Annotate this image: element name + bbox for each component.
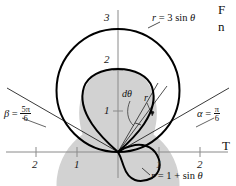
alpha-eq: = — [205, 108, 211, 119]
outer-curve-var: θ — [190, 12, 195, 23]
x-tick-label-neg2: 2 — [32, 159, 38, 170]
x-tick-label-pos2: 2 — [197, 159, 203, 170]
inner-curve-label: r = 1 + sin θ — [151, 171, 203, 182]
beta-symbol: β — [4, 108, 9, 119]
beta-angle-label: β = 5π 6 — [4, 105, 31, 124]
polar-figure: 3 2 1 2 1 1 2 r = 3 sin θ r = 1 + sin θ … — [0, 0, 236, 186]
page-edge-text-right: T — [222, 139, 230, 152]
beta-eq: = — [12, 108, 18, 119]
page-edge-text-top-2: n — [218, 20, 225, 33]
outer-curve-eq: = — [159, 12, 165, 23]
inner-curve-eq: = — [158, 170, 164, 181]
beta-fraction: 5π 6 — [20, 105, 31, 124]
x-tick-label-pos1: 1 — [156, 159, 162, 170]
inner-curve-rhs: 1 + sin — [166, 170, 195, 181]
inner-curve-lhs: r — [151, 170, 155, 181]
outer-curve-lhs: r — [152, 12, 156, 23]
y-tick-label-1: 1 — [104, 105, 110, 116]
y-tick-label-3: 3 — [104, 12, 110, 23]
outer-curve-rhs: 3 sin — [167, 12, 187, 23]
outer-curve-label: r = 3 sin θ — [152, 13, 195, 24]
alpha-angle-label: α = π 6 — [197, 105, 220, 124]
alpha-denominator: 6 — [214, 114, 220, 123]
y-tick-label-2: 2 — [104, 54, 110, 65]
beta-denominator: 6 — [20, 114, 31, 123]
dtheta-label: dθ — [122, 89, 132, 99]
inner-curve-var: θ — [198, 170, 203, 181]
alpha-fraction: π 6 — [214, 105, 220, 124]
page-edge-text-top-1: F — [218, 3, 225, 16]
radius-label: r — [144, 93, 148, 103]
alpha-symbol: α — [197, 108, 203, 119]
x-tick-label-neg1: 1 — [74, 159, 80, 170]
